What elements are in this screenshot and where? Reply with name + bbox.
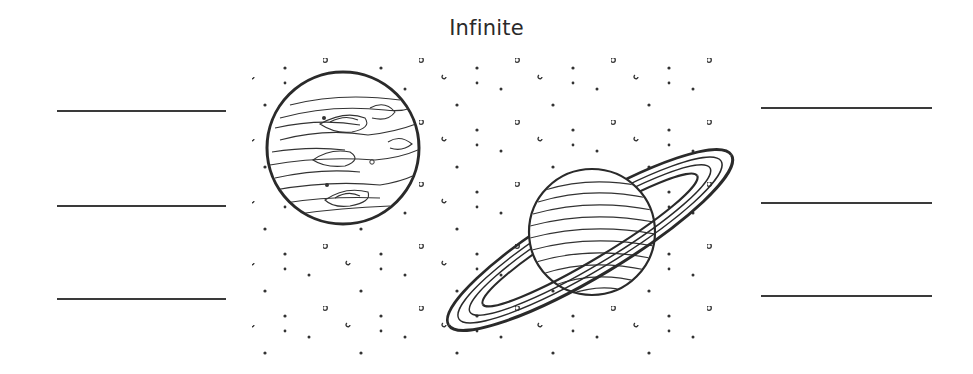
jupiter-planet <box>267 72 419 224</box>
space-illustration <box>0 0 973 374</box>
